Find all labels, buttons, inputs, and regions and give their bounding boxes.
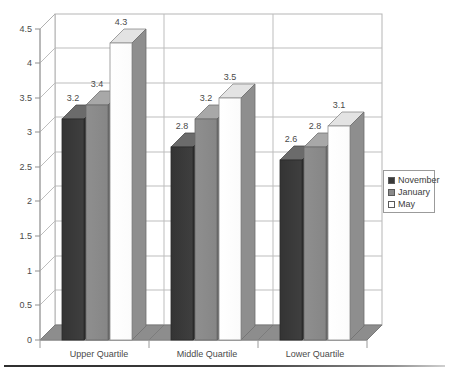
y-tick-label-4-5: 4.5 [6, 25, 32, 34]
data-label-november-lower: 2.6 [271, 135, 311, 144]
legend-item-november: November [388, 174, 429, 186]
chart-legend: November January May [383, 170, 435, 213]
bar-may-upper-quartile [110, 29, 146, 340]
legend-swatch-november-icon [388, 177, 395, 184]
legend-swatch-january-icon [388, 189, 395, 196]
y-tick-label-1: 1 [6, 267, 32, 276]
legend-label-november: November [398, 176, 440, 185]
x-tick-label-lower-quartile: Lower Quartile [268, 350, 362, 359]
data-label-november-upper: 3.2 [53, 94, 93, 103]
left-side-wall [40, 14, 55, 340]
y-tick-label-3-5: 3.5 [6, 94, 32, 103]
y-tick-label-1-5: 1.5 [6, 232, 32, 241]
data-label-january-lower: 2.8 [295, 122, 335, 131]
data-label-may-middle: 3.5 [210, 73, 250, 82]
x-tick-label-upper-quartile: Upper Quartile [52, 350, 146, 359]
legend-item-january: January [388, 186, 429, 198]
y-tick-label-2-5: 2.5 [6, 163, 32, 172]
bar-may-middle-quartile [219, 84, 255, 340]
legend-label-may: May [398, 200, 415, 209]
y-axis [35, 29, 40, 340]
data-label-january-middle: 3.2 [186, 94, 226, 103]
bottom-divider [4, 365, 445, 367]
y-tick-label-4: 4 [6, 59, 32, 68]
y-tick-label-2: 2 [6, 197, 32, 206]
data-label-may-upper: 4.3 [101, 18, 141, 27]
x-axis [40, 340, 367, 348]
legend-swatch-may-icon [388, 201, 395, 208]
chart-container: 4.5 4 3.5 3 2.5 2 1.5 1 0.5 0 3.2 3.4 4.… [0, 0, 449, 376]
x-tick-label-middle-quartile: Middle Quartile [160, 350, 254, 359]
data-label-november-middle: 2.8 [162, 122, 202, 131]
y-tick-label-0-5: 0.5 [6, 301, 32, 310]
data-label-january-upper: 3.4 [77, 80, 117, 89]
bar-may-lower-quartile [328, 112, 364, 340]
y-tick-label-0: 0 [6, 336, 32, 345]
data-label-may-lower: 3.1 [319, 101, 359, 110]
y-tick-label-3: 3 [6, 128, 32, 137]
chart-plot-svg [0, 0, 449, 376]
legend-label-january: January [398, 188, 430, 197]
legend-item-may: May [388, 198, 429, 210]
